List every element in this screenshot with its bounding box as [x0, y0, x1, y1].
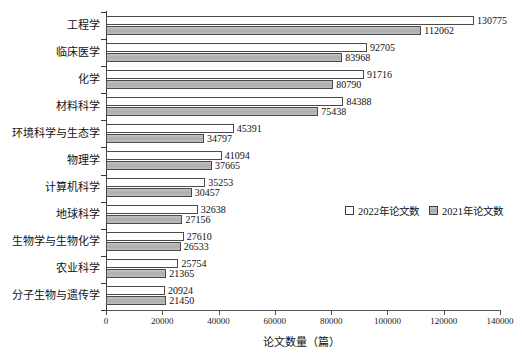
gray-square-icon — [429, 206, 438, 215]
chart-category-row: 化学9171680790 — [0, 66, 522, 93]
bar-2021 — [106, 215, 182, 224]
y-axis-tick — [101, 120, 106, 121]
bar-2021 — [106, 188, 192, 197]
bar-value-label: 27156 — [182, 215, 210, 225]
bar-2021 — [106, 134, 204, 143]
y-axis-tick — [101, 175, 106, 176]
bar-2022 — [106, 43, 367, 52]
chart-category-row: 生物学与生物化学2761026533 — [0, 229, 522, 256]
category-label: 农业科学 — [0, 262, 100, 275]
y-axis-tick — [101, 147, 106, 148]
bar-value-label: 75438 — [318, 107, 346, 117]
category-label: 计算机科学 — [0, 181, 100, 194]
bar-2022 — [106, 97, 343, 106]
bar-value-label: 26533 — [181, 242, 209, 252]
bar-2021 — [106, 107, 318, 116]
y-axis-tick — [101, 283, 106, 284]
chart-category-row: 物理学4109437665 — [0, 147, 522, 174]
bar-2022 — [106, 178, 205, 187]
bar-2022 — [106, 16, 474, 25]
category-label: 工程学 — [0, 19, 100, 32]
bar-value-label: 130775 — [474, 16, 507, 26]
bar-value-label: 30457 — [192, 188, 220, 198]
bar-value-label: 112062 — [421, 26, 454, 36]
bar-2022 — [106, 124, 234, 133]
legend-label-2022: 2022年论文数 — [358, 203, 419, 218]
bar-value-label: 37665 — [212, 161, 240, 171]
y-axis-tick — [101, 39, 106, 40]
x-axis-title: 论文数量（篇） — [0, 333, 522, 349]
chart-category-row: 分子生物与遗传学2092421450 — [0, 283, 522, 310]
bar-2021 — [106, 242, 181, 251]
x-axis-tick — [162, 311, 163, 315]
white-square-icon — [345, 206, 354, 215]
x-axis-line — [106, 310, 501, 311]
x-axis-tick-label: 100000 — [374, 316, 401, 327]
legend-item-2021: 2021年论文数 — [429, 203, 503, 218]
category-label: 临床医学 — [0, 46, 100, 59]
y-axis-tick — [101, 12, 106, 13]
x-axis-tick — [387, 311, 388, 315]
bar-2021 — [106, 53, 342, 62]
category-label: 材料科学 — [0, 100, 100, 113]
chart-category-row: 工程学130775112062 — [0, 12, 522, 39]
bar-value-label: 34797 — [204, 134, 232, 144]
y-axis-tick — [101, 202, 106, 203]
bar-value-label: 83968 — [342, 53, 370, 63]
x-axis-title-text: 论文数量（篇） — [263, 336, 340, 348]
bar-value-label: 84388 — [343, 97, 371, 107]
x-axis-tick-label: 20000 — [151, 316, 174, 327]
x-axis-tick — [219, 311, 220, 315]
x-axis-tick — [106, 311, 107, 315]
chart-category-row: 计算机科学3525330457 — [0, 175, 522, 202]
bar-2022 — [106, 232, 184, 241]
legend-item-2022: 2022年论文数 — [345, 203, 419, 218]
x-axis-tick — [331, 311, 332, 315]
bar-chart: 工程学130775112062临床医学9270583968化学917168079… — [0, 0, 522, 363]
bar-value-label: 92705 — [367, 43, 395, 53]
chart-category-row: 环境科学与生态学4539134797 — [0, 120, 522, 147]
category-label: 环境科学与生态学 — [0, 127, 100, 140]
bar-2021 — [106, 80, 333, 89]
category-label: 分子生物与遗传学 — [0, 289, 100, 302]
x-axis-tick — [500, 311, 501, 315]
x-axis-tick — [275, 311, 276, 315]
bar-2021 — [106, 161, 212, 170]
x-axis-tick-label: 140000 — [487, 316, 514, 327]
category-label: 化学 — [0, 73, 100, 86]
bar-2022 — [106, 151, 222, 160]
bar-2022 — [106, 70, 364, 79]
bar-2021 — [106, 296, 166, 305]
bar-value-label: 45391 — [234, 124, 262, 134]
y-axis-tick — [101, 256, 106, 257]
x-axis-tick-label: 80000 — [320, 316, 343, 327]
y-axis-tick — [101, 93, 106, 94]
category-label: 生物学与生物化学 — [0, 235, 100, 248]
bar-2022 — [106, 205, 198, 214]
chart-category-row: 农业科学2575421365 — [0, 256, 522, 283]
chart-category-row: 临床医学9270583968 — [0, 39, 522, 66]
y-axis-tick — [101, 229, 106, 230]
x-axis-tick-label: 60000 — [264, 316, 287, 327]
bar-value-label: 91716 — [364, 70, 392, 80]
y-axis-tick — [101, 66, 106, 67]
bar-value-label: 21365 — [166, 269, 194, 279]
chart-legend: 2022年论文数 2021年论文数 — [345, 203, 503, 218]
x-axis-tick-label: 0 — [104, 316, 109, 327]
x-axis-tick-label: 40000 — [207, 316, 230, 327]
x-axis-tick — [444, 311, 445, 315]
bar-2022 — [106, 286, 165, 295]
bar-2022 — [106, 259, 178, 268]
bar-2021 — [106, 26, 421, 35]
x-axis-tick-label: 120000 — [430, 316, 457, 327]
bar-value-label: 80790 — [333, 80, 361, 90]
category-label: 地球科学 — [0, 208, 100, 221]
bar-value-label: 21450 — [166, 296, 194, 306]
chart-category-row: 材料科学8438875438 — [0, 93, 522, 120]
bar-2021 — [106, 269, 166, 278]
legend-label-2021: 2021年论文数 — [442, 203, 503, 218]
category-label: 物理学 — [0, 154, 100, 167]
